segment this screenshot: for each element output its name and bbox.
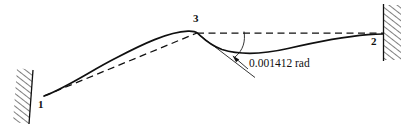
node-label-1: 1: [38, 99, 44, 110]
deflected-shape-curve: [44, 31, 383, 96]
diagram-canvas: [0, 0, 408, 136]
rotation-angle-annotation: [198, 32, 256, 78]
chord-line-1-to-3: [44, 33, 197, 96]
node-label-3: 3: [193, 13, 199, 24]
fixed-support-left: [13, 68, 33, 124]
angle-reference-line: [198, 34, 256, 78]
node-label-2: 2: [371, 36, 377, 47]
support-hatch-area-right: [384, 5, 401, 60]
fixed-support-right: [384, 4, 402, 61]
rotation-angle-value-label: 0.001412 rad: [249, 58, 310, 70]
beam-deflection-diagram: 1 3 2 0.001412 rad: [0, 0, 408, 136]
